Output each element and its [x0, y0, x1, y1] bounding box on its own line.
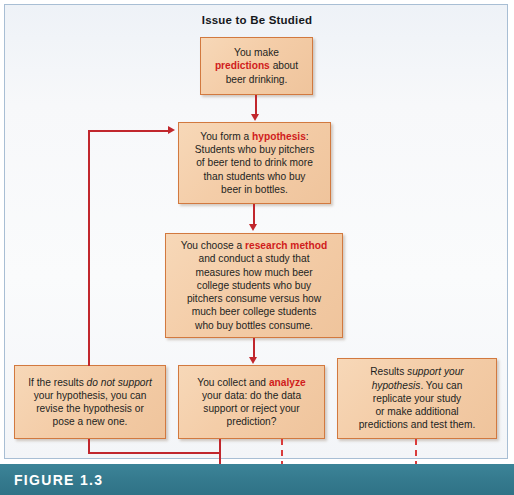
flow-node-research-method-text: You choose a research methodand conduct … [171, 239, 337, 331]
flow-node-collect-and-analyze-text: You collect and analyzeyour data: do the… [184, 376, 319, 429]
flow-node-research-method: You choose a research methodand conduct … [165, 233, 343, 338]
arrowhead-down-icon [251, 114, 259, 121]
flow-node-results-support: Results support yourhypothesis. You canr… [337, 358, 497, 439]
connector-stub-above-do-not-support [88, 347, 90, 366]
page-title: Issue to Be Studied [0, 14, 514, 26]
flowchart-canvas: Issue to Be Studied You makepredictions … [0, 0, 514, 460]
dashed-connector-analyze-down [281, 439, 283, 467]
connector-research-method-to-analyze [253, 338, 255, 358]
figure-caption-bar: FIGURE 1.3 [0, 464, 514, 495]
flow-node-results-do-not-support: If the results do not supportyour hypoth… [14, 365, 166, 439]
connector-analyze-to-do-not-support-run [88, 452, 221, 454]
arrowhead-right-icon [168, 126, 175, 134]
flow-node-results-support-text: Results support yourhypothesis. You canr… [343, 365, 491, 431]
arrowhead-down-icon [249, 224, 257, 231]
figure-container: Issue to Be Studied You makepredictions … [0, 0, 514, 495]
dashed-connector-up-into-support [415, 439, 417, 467]
flow-node-results-do-not-support-text: If the results do not supportyour hypoth… [20, 376, 160, 429]
connector-up-into-do-not-support [88, 439, 90, 453]
connector-predictions-to-hypothesis [255, 95, 257, 115]
flow-node-predictions: You makepredictions aboutbeer drinking. [200, 37, 313, 95]
flow-node-hypothesis: You form a hypothesis:Students who buy p… [178, 122, 331, 204]
flow-node-hypothesis-text: You form a hypothesis:Students who buy p… [184, 130, 325, 196]
feedback-loop-riser [88, 130, 90, 348]
figure-caption-label: FIGURE 1.3 [0, 472, 103, 488]
arrowhead-down-icon [249, 357, 257, 364]
flow-node-predictions-text: You makepredictions aboutbeer drinking. [206, 46, 307, 86]
connector-hypothesis-to-research-method [253, 204, 255, 225]
flow-node-collect-and-analyze: You collect and analyzeyour data: do the… [178, 365, 325, 439]
feedback-loop-run-to-hypothesis [88, 130, 170, 132]
